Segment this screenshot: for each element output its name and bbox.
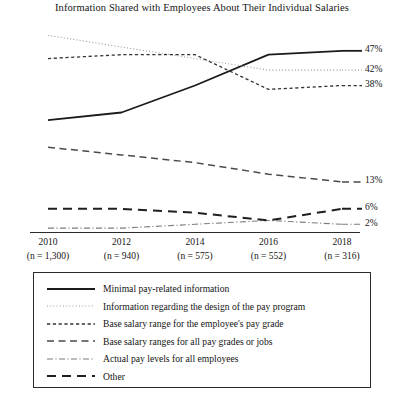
plot-svg bbox=[30, 20, 360, 232]
x-tick-year: 2018 bbox=[302, 236, 382, 250]
legend-item[interactable]: Actual pay levels for all employees bbox=[34, 350, 370, 368]
series-end-label: 2% bbox=[365, 218, 378, 228]
plot-area bbox=[30, 20, 360, 232]
legend-item[interactable]: Other bbox=[34, 368, 370, 386]
x-tick-2012: 2012(n = 940) bbox=[82, 236, 162, 263]
legend-item[interactable]: Base salary ranges for all pay grades or… bbox=[34, 333, 370, 351]
x-tick-sample-size: (n = 575) bbox=[155, 250, 235, 264]
series-line bbox=[48, 209, 342, 221]
x-tick-year: 2010 bbox=[8, 236, 88, 250]
x-axis-tick-labels: 2010(n = 1,300)2012(n = 940)2014(n = 575… bbox=[0, 236, 404, 270]
legend-item-label: Other bbox=[103, 371, 125, 382]
x-tick-year: 2016 bbox=[229, 236, 309, 250]
legend-item-label: Actual pay levels for all employees bbox=[103, 353, 239, 364]
x-tick-2018: 2018(n = 316) bbox=[302, 236, 382, 263]
legend-item-label: Base salary ranges for all pay grades or… bbox=[103, 336, 272, 347]
x-tick-sample-size: (n = 552) bbox=[229, 250, 309, 264]
chart-container: Information Shared with Employees About … bbox=[0, 0, 404, 396]
legend-swatch-icon bbox=[46, 283, 96, 295]
legend-item[interactable]: Base salary range for the employee's pay… bbox=[34, 315, 370, 333]
x-tick-2014: 2014(n = 575) bbox=[155, 236, 235, 263]
x-tick-2010: 2010(n = 1,300) bbox=[8, 236, 88, 263]
legend-item-label: Base salary range for the employee's pay… bbox=[103, 318, 283, 329]
legend-item[interactable]: Minimal pay-related information bbox=[34, 280, 370, 298]
legend-swatch-icon bbox=[46, 318, 96, 330]
legend-item-label: Information regarding the design of the … bbox=[103, 301, 305, 312]
series-end-label: 13% bbox=[365, 175, 382, 185]
series-line bbox=[48, 147, 342, 182]
series-line bbox=[48, 55, 342, 90]
legend-swatch-icon bbox=[46, 370, 96, 382]
series-end-label: 38% bbox=[365, 79, 382, 89]
legend-item-label: Minimal pay-related information bbox=[103, 283, 229, 294]
series-line bbox=[48, 220, 342, 228]
legend-swatch-icon bbox=[46, 335, 96, 347]
x-axis-line bbox=[30, 232, 360, 233]
x-tick-sample-size: (n = 940) bbox=[82, 250, 162, 264]
x-tick-year: 2014 bbox=[155, 236, 235, 250]
x-tick-sample-size: (n = 1,300) bbox=[8, 250, 88, 264]
legend-item[interactable]: Information regarding the design of the … bbox=[34, 298, 370, 316]
legend-swatch-icon bbox=[46, 353, 96, 365]
chart-title: Information Shared with Employees About … bbox=[0, 2, 404, 13]
series-end-label: 6% bbox=[365, 202, 378, 212]
chart-legend: Minimal pay-related informationInformati… bbox=[33, 272, 371, 388]
x-tick-sample-size: (n = 316) bbox=[302, 250, 382, 264]
legend-swatch-icon bbox=[46, 300, 96, 312]
x-tick-year: 2012 bbox=[82, 236, 162, 250]
series-line bbox=[48, 51, 342, 120]
series-end-label: 42% bbox=[365, 64, 382, 74]
x-tick-2016: 2016(n = 552) bbox=[229, 236, 309, 263]
series-end-label: 47% bbox=[365, 44, 382, 54]
